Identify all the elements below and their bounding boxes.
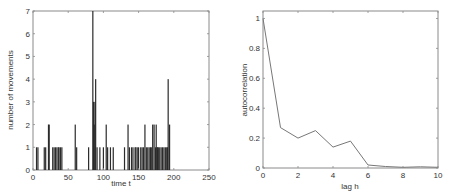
bar — [132, 147, 133, 170]
bar — [159, 147, 160, 170]
bar — [107, 147, 108, 170]
x-tick-label: 0 — [261, 171, 266, 180]
y-tick-label: 0 — [256, 164, 261, 173]
bar — [163, 147, 164, 170]
right-x-axis-label: lag h — [341, 182, 358, 191]
bar — [106, 125, 107, 170]
bar — [56, 147, 57, 170]
right-x-axis-ticks: 0246810 — [261, 11, 443, 180]
bar — [142, 147, 143, 170]
y-tick-label: 2 — [26, 121, 31, 130]
bar — [135, 147, 136, 170]
bar — [131, 147, 132, 170]
x-tick-label: 250 — [202, 173, 216, 182]
x-tick-label: 6 — [366, 171, 371, 180]
y-tick-label: 0.4 — [249, 104, 261, 113]
bar — [36, 147, 37, 170]
bar — [144, 125, 145, 170]
x-tick-label: 0 — [31, 173, 36, 182]
y-tick-label: 0.6 — [249, 74, 261, 83]
bar — [54, 147, 55, 170]
right-y-axis-ticks: 00.20.40.60.81 — [249, 14, 438, 173]
left-y-axis-label: number of movements — [6, 50, 15, 130]
x-tick-label: 50 — [64, 173, 73, 182]
bar — [162, 147, 163, 170]
y-tick-label: 1 — [26, 143, 31, 152]
bar — [152, 125, 153, 170]
bar — [147, 147, 148, 170]
bar — [143, 147, 144, 170]
bar — [129, 147, 130, 170]
bar — [124, 147, 125, 170]
bar — [61, 147, 62, 170]
bar — [37, 147, 38, 170]
y-tick-label: 5 — [26, 52, 31, 61]
bar — [165, 147, 166, 170]
bar — [168, 79, 169, 170]
autocorrelation-line — [263, 19, 438, 168]
bar — [161, 147, 162, 170]
bar — [137, 147, 138, 170]
left-bars — [36, 11, 170, 170]
bar — [169, 125, 170, 170]
bar — [138, 147, 139, 170]
bar — [75, 125, 76, 170]
bar — [52, 147, 53, 170]
movements-bar-chart: 050100150200250 01234567 time t number o… — [6, 7, 216, 188]
bar — [151, 147, 152, 170]
bar — [103, 147, 104, 170]
bar — [140, 147, 141, 170]
x-tick-label: 8 — [401, 171, 406, 180]
x-tick-label: 10 — [434, 171, 443, 180]
y-tick-label: 0 — [26, 166, 31, 175]
y-tick-label: 1 — [256, 14, 261, 23]
bar — [60, 147, 61, 170]
bar — [58, 147, 59, 170]
bar — [95, 79, 96, 170]
x-tick-label: 2 — [296, 171, 301, 180]
y-tick-label: 7 — [26, 7, 31, 16]
right-plot-frame — [263, 11, 438, 168]
bar — [110, 147, 111, 170]
right-y-axis-label: autocorrelation — [240, 64, 249, 117]
bar — [45, 147, 46, 170]
bar — [88, 147, 89, 170]
bar — [153, 125, 154, 170]
bar — [146, 147, 147, 170]
x-tick-label: 200 — [167, 173, 181, 182]
bar — [99, 147, 100, 170]
figure: 050100150200250 01234567 time t number o… — [0, 0, 451, 195]
bar — [96, 147, 97, 170]
bar — [49, 125, 50, 170]
bar — [158, 147, 159, 170]
left-x-axis-label: time t — [111, 179, 131, 188]
y-tick-label: 3 — [26, 98, 31, 107]
autocorrelation-line-chart: 0246810 00.20.40.60.81 lag h autocorrela… — [240, 11, 443, 191]
left-plot-frame — [33, 11, 209, 170]
y-tick-label: 4 — [26, 75, 31, 84]
x-tick-label: 100 — [97, 173, 111, 182]
bar — [149, 147, 150, 170]
bar — [44, 147, 45, 170]
y-tick-label: 6 — [26, 30, 31, 39]
bar — [113, 147, 114, 170]
bar — [76, 147, 77, 170]
x-tick-label: 4 — [331, 171, 336, 180]
bar — [55, 147, 56, 170]
y-tick-label: 0.8 — [249, 44, 261, 53]
y-tick-label: 0.2 — [249, 134, 261, 143]
x-tick-label: 150 — [132, 173, 146, 182]
bar — [127, 125, 128, 170]
